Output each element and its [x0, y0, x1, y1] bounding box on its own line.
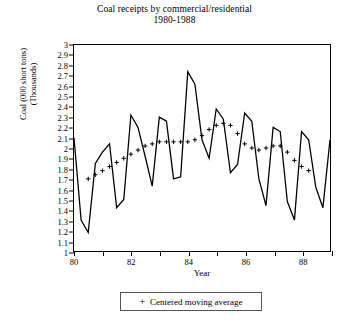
x-axis-tick-mark	[189, 251, 190, 256]
y-axis-tick-label: 1.7	[8, 176, 74, 185]
y-axis-tick-mark	[69, 107, 74, 108]
x-axis-tick-label: 80	[70, 258, 79, 267]
moving-average-marker	[221, 121, 225, 125]
y-axis-tick-label: 1	[8, 249, 74, 258]
y-axis-tick-mark	[69, 55, 74, 56]
moving-average-marker	[178, 140, 182, 144]
moving-average-marker	[171, 140, 175, 144]
moving-average-marker	[114, 160, 118, 164]
y-axis-tick-label: 1.3	[8, 217, 74, 226]
y-axis-tick-mark	[69, 45, 74, 46]
x-axis-tick-label: 82	[127, 258, 136, 267]
y-axis-tick-label: 2	[8, 145, 74, 154]
y-axis-tick-label: 2.4	[8, 103, 74, 112]
moving-average-marker	[292, 158, 296, 162]
y-axis-tick-mark	[69, 86, 74, 87]
legend-marker-icon: +	[139, 297, 145, 307]
x-axis-tick-label: 86	[242, 258, 251, 267]
y-axis-tick-mark	[69, 242, 74, 243]
moving-average-marker	[200, 133, 204, 137]
y-axis-tick-label: 3	[8, 41, 74, 50]
y-axis-tick-mark	[69, 201, 74, 202]
y-axis-tick-mark	[69, 211, 74, 212]
moving-average-marker	[122, 156, 126, 160]
moving-average-marker	[129, 152, 133, 156]
y-axis-tick-label: 1.6	[8, 186, 74, 195]
y-axis-tick-label: 1.4	[8, 207, 74, 216]
moving-average-marker	[193, 138, 197, 142]
y-axis-tick-mark	[69, 221, 74, 222]
y-axis-tick-mark	[69, 190, 74, 191]
x-axis-tick-label: 84	[184, 258, 193, 267]
y-axis-tick-mark	[69, 169, 74, 170]
y-axis-tick-label: 1.8	[8, 165, 74, 174]
y-axis-tick-mark	[69, 159, 74, 160]
y-axis-tick-label: 2.1	[8, 134, 74, 143]
chart-title-subtitle: 1980-1988	[0, 15, 349, 26]
y-axis-tick-mark	[69, 128, 74, 129]
moving-average-marker	[228, 123, 232, 127]
moving-average-marker	[306, 168, 310, 172]
moving-average-marker	[100, 168, 104, 172]
moving-average-marker	[107, 164, 111, 168]
x-axis-tick-mark	[103, 251, 104, 256]
moving-average-marker	[86, 177, 90, 181]
y-axis-tick-mark	[69, 149, 74, 150]
y-axis-tick-mark	[69, 138, 74, 139]
y-axis-tick-label: 2.2	[8, 124, 74, 133]
chart-title: Coal receipts by commercial/residential …	[0, 4, 349, 26]
moving-average-marker	[242, 142, 246, 146]
moving-average-marker	[186, 140, 190, 144]
chart-figure: Coal receipts by commercial/residential …	[0, 0, 349, 320]
y-axis-tick-label: 1.9	[8, 155, 74, 164]
moving-average-marker	[157, 140, 161, 144]
y-axis-tick-label: 2.6	[8, 82, 74, 91]
x-axis-tick-mark	[275, 251, 276, 256]
moving-average-marker	[257, 148, 261, 152]
y-axis-tick-label: 2.8	[8, 61, 74, 70]
y-axis-tick-mark	[69, 65, 74, 66]
y-axis-tick-label: 1.1	[8, 238, 74, 247]
y-axis-tick-label: 2.3	[8, 113, 74, 122]
series-canvas	[74, 45, 330, 251]
x-axis-tick-mark	[74, 251, 75, 256]
moving-average-marker	[299, 164, 303, 168]
moving-average-marker	[235, 131, 239, 135]
moving-average-marker	[285, 150, 289, 154]
y-axis-tick-label: 2.7	[8, 72, 74, 81]
y-axis-tick-mark	[69, 232, 74, 233]
moving-average-marker	[150, 142, 154, 146]
y-axis-tick-mark	[69, 76, 74, 77]
y-axis-tick-mark	[69, 117, 74, 118]
chart-title-main: Coal receipts by commercial/residential	[0, 4, 349, 15]
x-axis-tick-mark	[160, 251, 161, 256]
x-axis-tick-mark	[131, 251, 132, 256]
moving-average-marker	[250, 146, 254, 150]
x-axis-title: Year	[73, 268, 331, 278]
moving-average-marker	[207, 127, 211, 131]
moving-average-marker	[264, 146, 268, 150]
moving-average-marker	[136, 148, 140, 152]
moving-average-marker	[164, 140, 168, 144]
data-series-line	[74, 72, 330, 233]
chart-legend: + Centered moving average	[120, 292, 262, 311]
y-axis-tick-mark	[69, 97, 74, 98]
y-axis-tick-label: 2.5	[8, 93, 74, 102]
y-axis-tick-label: 1.2	[8, 228, 74, 237]
x-axis-tick-mark	[303, 251, 304, 256]
plot-area: 32.92.82.72.62.52.42.32.22.121.91.81.71.…	[73, 44, 331, 252]
legend-label: Centered moving average	[150, 297, 242, 307]
x-axis-tick-mark	[217, 251, 218, 256]
x-axis-tick-mark	[332, 251, 333, 256]
x-axis-tick-label: 88	[299, 258, 308, 267]
x-axis-tick-mark	[246, 251, 247, 256]
y-axis-tick-label: 2.9	[8, 51, 74, 60]
y-axis-tick-mark	[69, 180, 74, 181]
y-axis-tick-label: 1.5	[8, 197, 74, 206]
